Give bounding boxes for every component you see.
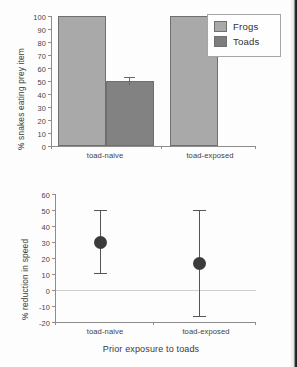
page-scan-edge [293, 0, 297, 367]
bar-y-tick-20: 20 [24, 117, 46, 126]
point-chart-plot-area [56, 194, 256, 322]
ci-cap-upper-toad-naive [94, 210, 107, 211]
bar-toads-toad-naive [106, 81, 154, 146]
point-y-tick-neg20: -20 [26, 319, 50, 328]
legend-label-frogs: Frogs [233, 21, 259, 32]
point-y-tick-0: 0 [28, 287, 50, 296]
ci-cap-lower-toad-exposed [193, 316, 206, 317]
bar-x-tickmark [51, 146, 52, 149]
bar-x-tickmark [255, 146, 256, 149]
bar-y-tick-40: 40 [24, 91, 46, 100]
bar-y-tick-90: 90 [24, 26, 46, 35]
point-x-label-toad-naive: toad-naive [56, 327, 154, 336]
bar-y-tick-0: 0 [24, 143, 46, 152]
point-y-tick-neg10: -10 [26, 303, 50, 312]
point-x-tickmark [153, 322, 154, 325]
point-x-label-toad-exposed: toad-exposed [156, 327, 256, 336]
ci-cap-lower-toad-naive [94, 273, 107, 274]
bar-y-tick-10: 10 [24, 130, 46, 139]
ci-cap-upper-toad-exposed [193, 210, 206, 211]
figure-container: % snakes eating prey item 100 90 80 70 6… [0, 0, 297, 367]
bar-y-tick-50: 50 [24, 78, 46, 87]
point-chart-x-axis [55, 322, 256, 323]
point-y-tick-30: 30 [28, 239, 50, 248]
point-x-tickmark [55, 322, 56, 325]
data-point-toad-naive [94, 236, 107, 249]
bar-y-tick-70: 70 [24, 52, 46, 61]
point-y-tick-10: 10 [28, 271, 50, 280]
chart-legend: Frogs Toads [207, 14, 281, 57]
bar-y-tick-30: 30 [24, 104, 46, 113]
legend-swatch-frogs-icon [214, 21, 227, 32]
bar-y-tick-80: 80 [24, 39, 46, 48]
point-y-tick-20: 20 [28, 255, 50, 264]
point-x-tickmark [255, 322, 256, 325]
bar-x-label-toad-exposed: toad-exposed [164, 151, 256, 160]
bar-frogs-toad-naive [58, 16, 106, 146]
legend-swatch-toads-icon [214, 36, 227, 47]
bar-x-tickmark [161, 146, 162, 149]
legend-label-toads: Toads [233, 36, 260, 47]
bar-y-tick-100: 100 [24, 13, 46, 22]
bar-y-tick-60: 60 [24, 65, 46, 74]
legend-item-frogs: Frogs [214, 19, 274, 34]
bar-chart-x-axis [51, 146, 256, 147]
panel-point-estimate-chart: % reduction in speed 60 50 40 30 20 10 0… [0, 180, 297, 367]
panel-bar-chart: % snakes eating prey item 100 90 80 70 6… [0, 0, 297, 180]
point-y-tick-40: 40 [28, 223, 50, 232]
bar-x-label-toad-naive: toad-naive [53, 151, 157, 160]
point-chart-x-axis-title: Prior exposure to toads [46, 344, 256, 354]
legend-item-toads: Toads [214, 34, 274, 49]
point-y-tick-50: 50 [28, 207, 50, 216]
error-bar-toads-toad-naive [129, 77, 130, 85]
data-point-toad-exposed [193, 257, 206, 270]
error-bar-cap-toads-toad-naive [124, 77, 135, 78]
point-y-tick-60: 60 [28, 191, 50, 200]
